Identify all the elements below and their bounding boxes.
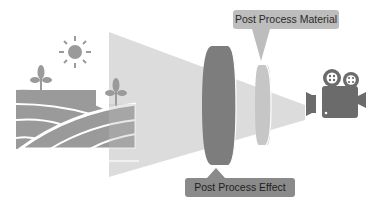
post-process-material-label: Post Process Material: [233, 10, 339, 29]
frustum-overlay: [109, 104, 136, 149]
frustum-edge-stripe: [109, 160, 139, 162]
effect-lens: [202, 46, 236, 165]
sun-icon: [59, 36, 91, 68]
post-process-effect-label: Post Process Effect: [185, 178, 295, 197]
effect-pointer: [207, 168, 225, 178]
movie-camera-icon: [306, 69, 366, 118]
material-lens: [255, 65, 271, 145]
material-pointer: [252, 29, 270, 61]
plant-icon: [30, 65, 52, 92]
